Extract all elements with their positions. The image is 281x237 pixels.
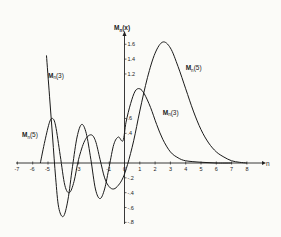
y-axis-arrow-icon [123, 31, 127, 36]
curve-annotation: Mn(3) [48, 72, 64, 81]
curve-annotation: Mn(3) [163, 109, 179, 118]
x-tick-label: 1 [138, 166, 141, 172]
y-tick-label: 1.4 [128, 56, 136, 62]
x-tick-label: 7 [230, 166, 233, 172]
y-axis-label: Mn(x) [114, 24, 130, 33]
y-tick-label: -.8 [128, 219, 134, 225]
curve-annotation: Mn(5) [186, 64, 202, 73]
x-tick-label: 8 [245, 166, 248, 172]
y-tick-label: -.2 [128, 175, 134, 181]
y-tick-label: 1.2 [128, 71, 136, 77]
x-tick-label: 4 [184, 166, 187, 172]
x-tick-label: 6 [215, 166, 218, 172]
y-tick-label: -.6 [128, 205, 134, 211]
y-tick-label: 1.6 [128, 41, 136, 47]
curve-annotation: Mn(5) [22, 131, 38, 140]
x-tick-label: -6 [30, 166, 35, 172]
y-tick-label: -.4 [128, 190, 134, 196]
x-tick-label: -5 [45, 166, 50, 172]
chart: -7-6-5-3-10123456781.61.41.2.6.4-.2-.4-.… [0, 0, 281, 237]
y-tick-label: .6 [128, 115, 133, 121]
x-tick-label: -7 [14, 166, 19, 172]
x-axis-label: n [266, 160, 270, 167]
annotations: Mn(3)Mn(5)Mn(5)Mn(3) [22, 64, 202, 139]
curves [40, 42, 247, 217]
y-tick-label: .4 [128, 130, 133, 136]
x-tick-label: 3 [169, 166, 172, 172]
x-tick-label: 5 [200, 166, 203, 172]
x-tick-label: 2 [154, 166, 157, 172]
